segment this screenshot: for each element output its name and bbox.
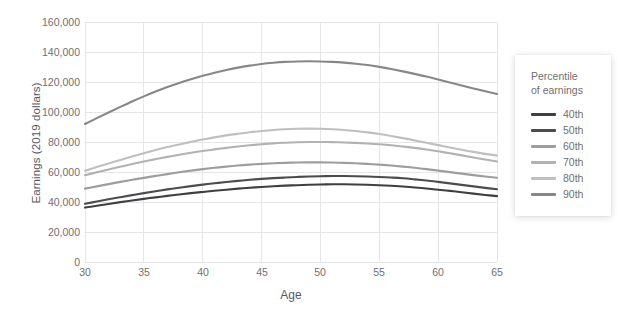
legend-swatch-icon: [531, 177, 556, 180]
legend-swatch-icon: [531, 193, 556, 196]
earnings-by-age-line-chart: Earnings (2019 dollars) 0 20,000 40,000 …: [0, 0, 621, 321]
legend-items: 40th50th60th70th80th90th: [531, 106, 611, 202]
legend-item-40th[interactable]: 40th: [531, 106, 611, 122]
legend-label: 70th: [563, 156, 583, 168]
legend-swatch-icon: [531, 145, 556, 148]
legend-swatch-icon: [531, 161, 556, 164]
series-line-80th: [85, 129, 497, 171]
legend-title-line-2: of earnings: [531, 83, 611, 97]
legend-item-60th[interactable]: 60th: [531, 138, 611, 154]
series-line-40th: [85, 184, 497, 207]
legend-label: 50th: [563, 124, 583, 136]
legend-item-50th[interactable]: 50th: [531, 122, 611, 138]
legend-item-70th[interactable]: 70th: [531, 154, 611, 170]
legend-label: 90th: [563, 188, 583, 200]
legend-label: 60th: [563, 140, 583, 152]
legend-swatch-icon: [531, 113, 556, 116]
legend-item-80th[interactable]: 80th: [531, 170, 611, 186]
legend: Percentile of earnings 40th50th60th70th8…: [515, 55, 611, 216]
series-line-90th: [85, 61, 497, 124]
legend-label: 80th: [563, 172, 583, 184]
legend-title: Percentile of earnings: [531, 69, 611, 97]
legend-swatch-icon: [531, 129, 556, 132]
legend-title-line-1: Percentile: [531, 69, 611, 83]
legend-label: 40th: [563, 108, 583, 120]
legend-item-90th[interactable]: 90th: [531, 186, 611, 202]
series-lines: [85, 61, 497, 207]
